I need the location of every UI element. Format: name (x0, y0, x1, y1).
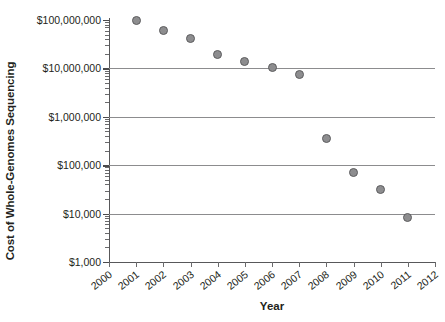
y-tick-minor (105, 31, 110, 32)
data-point (186, 34, 195, 43)
data-point (322, 134, 331, 143)
data-point (295, 70, 304, 79)
y-tick-minor (105, 199, 110, 200)
x-tick (272, 262, 273, 267)
y-tick-label: $1,000,000 (6, 112, 101, 122)
y-tick-minor (105, 45, 110, 46)
x-tick-label: 2008 (306, 268, 332, 292)
y-tick-minor (105, 27, 110, 28)
x-tick (163, 262, 164, 267)
x-tick (326, 262, 327, 267)
y-tick-minor (105, 224, 110, 225)
data-point (159, 26, 168, 35)
gridline (109, 117, 435, 118)
x-tick (435, 262, 436, 267)
x-axis-title: Year (109, 300, 435, 312)
y-tick-minor (105, 119, 110, 120)
x-tick-label: 2010 (360, 268, 386, 292)
y-tick-minor (105, 151, 110, 152)
x-tick (354, 262, 355, 267)
y-tick-minor (105, 79, 110, 80)
x-tick-label: 2006 (251, 268, 277, 292)
x-tick (136, 262, 137, 267)
gridline (109, 214, 435, 215)
x-tick-label: 2012 (414, 268, 440, 292)
data-point (349, 168, 358, 177)
y-tick-minor (105, 128, 110, 129)
y-tick-minor (105, 239, 110, 240)
y-tick-minor (105, 228, 110, 229)
x-tick-label: 2001 (115, 268, 141, 292)
y-tick-minor (105, 35, 110, 36)
y-tick-minor (105, 180, 110, 181)
y-tick-minor (105, 124, 110, 125)
x-tick (109, 262, 110, 267)
y-tick-minor (105, 191, 110, 192)
y-tick-minor (105, 73, 110, 74)
y-tick-minor (105, 121, 110, 122)
scatter-chart: Cost of Whole-Genomes Sequencing $100,00… (0, 0, 445, 322)
data-point (403, 213, 412, 222)
y-tick-label: $10,000 (6, 209, 101, 219)
data-point (132, 16, 141, 25)
x-tick (245, 262, 246, 267)
x-tick (408, 262, 409, 267)
x-tick-label: 2003 (170, 268, 196, 292)
x-tick-label: 2007 (278, 268, 304, 292)
y-tick-major (103, 20, 110, 21)
y-tick-label: $100,000,000 (6, 15, 101, 25)
y-tick-minor (105, 136, 110, 137)
y-tick-minor (105, 71, 110, 72)
y-tick-minor (105, 102, 110, 103)
y-tick-minor (105, 94, 110, 95)
x-tick-label: 2000 (88, 268, 114, 292)
y-tick-minor (105, 173, 110, 174)
x-tick (381, 262, 382, 267)
y-tick-minor (105, 76, 110, 77)
x-tick-label: 2002 (143, 268, 169, 292)
y-tick-minor (105, 216, 110, 217)
y-tick-minor (105, 39, 110, 40)
data-point (240, 57, 249, 66)
y-tick-label: $10,000,000 (6, 63, 101, 73)
x-tick-label: 2011 (388, 268, 413, 291)
y-tick-minor (105, 167, 110, 168)
data-point (268, 63, 277, 72)
x-tick (299, 262, 300, 267)
y-tick-minor (105, 176, 110, 177)
y-tick-minor (105, 184, 110, 185)
y-tick-minor (105, 247, 110, 248)
gridline (109, 165, 435, 166)
y-tick-label: $100,000 (6, 160, 101, 170)
x-tick (191, 262, 192, 267)
y-tick-minor (105, 25, 110, 26)
data-point (376, 185, 385, 194)
y-tick-major (103, 165, 110, 166)
y-tick-major (103, 214, 110, 215)
y-tick-minor (105, 54, 110, 55)
y-tick-major (103, 117, 110, 118)
data-point (213, 50, 222, 59)
y-tick-major (103, 68, 110, 69)
x-tick-label: 2004 (197, 268, 223, 292)
y-tick-minor (105, 88, 110, 89)
x-tick-label: 2005 (224, 268, 250, 292)
y-tick-minor (105, 170, 110, 171)
x-tick (218, 262, 219, 267)
plot-area: 2000200120022003200420052006200720082009… (109, 20, 435, 262)
y-tick-minor (105, 218, 110, 219)
y-tick-minor (105, 233, 110, 234)
x-tick-label: 2009 (333, 268, 359, 292)
y-tick-label: $1,000 (6, 257, 101, 267)
y-tick-minor (105, 131, 110, 132)
y-tick-minor (105, 142, 110, 143)
y-tick-minor (105, 221, 110, 222)
y-tick-minor (105, 83, 110, 84)
y-tick-minor (105, 22, 110, 23)
